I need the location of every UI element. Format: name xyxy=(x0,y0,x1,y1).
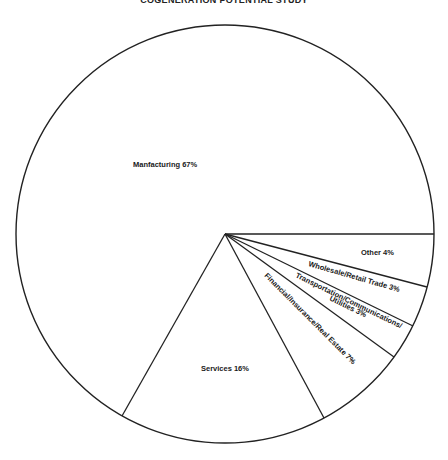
slice-label-other: Other 4% xyxy=(361,248,394,257)
slice-label-services: Services 16% xyxy=(201,364,249,373)
slice-label-manufacturing: Manfacturing 67% xyxy=(133,160,198,169)
pie-chart: Manfacturing 67% Services 16% Other 4% W… xyxy=(0,0,448,460)
